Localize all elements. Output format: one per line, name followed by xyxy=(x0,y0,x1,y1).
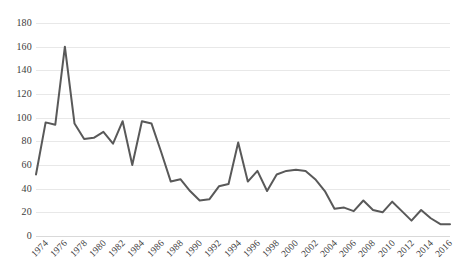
y-axis: 020406080100120140160180 xyxy=(0,23,32,236)
x-tick-label-1978: 1978 xyxy=(68,238,89,259)
series-line-layer xyxy=(36,23,450,236)
x-tick-label-2002: 2002 xyxy=(299,238,320,259)
x-tick-label-2010: 2010 xyxy=(376,238,397,259)
y-tick-label-60: 60 xyxy=(22,160,32,170)
x-tick-label-1984: 1984 xyxy=(126,238,147,259)
x-tick-label-1998: 1998 xyxy=(260,238,281,259)
y-tick-label-80: 80 xyxy=(22,136,32,146)
y-tick-label-40: 40 xyxy=(22,184,32,194)
x-tick-label-2014: 2014 xyxy=(414,238,435,259)
y-tick-label-140: 140 xyxy=(16,65,32,75)
x-tick-label-1996: 1996 xyxy=(241,238,262,259)
x-tick-label-1994: 1994 xyxy=(222,238,243,259)
x-tick-label-1990: 1990 xyxy=(183,238,204,259)
y-tick-label-100: 100 xyxy=(16,113,32,123)
y-tick-label-0: 0 xyxy=(27,231,32,241)
y-tick-label-20: 20 xyxy=(22,207,32,217)
x-tick-label-2012: 2012 xyxy=(395,238,416,259)
y-tick-label-120: 120 xyxy=(16,89,32,99)
x-tick-label-2008: 2008 xyxy=(357,238,378,259)
x-tick-label-1988: 1988 xyxy=(164,238,185,259)
x-tick-label-1974: 1974 xyxy=(29,238,50,259)
line-chart: 020406080100120140160180 197419761978198… xyxy=(0,0,458,279)
x-tick-label-1986: 1986 xyxy=(145,238,166,259)
y-tick-label-160: 160 xyxy=(16,42,32,52)
plot-area xyxy=(36,23,450,236)
data-line-series-1 xyxy=(36,47,450,225)
x-tick-label-1980: 1980 xyxy=(87,238,108,259)
x-tick-label-2000: 2000 xyxy=(280,238,301,259)
x-axis: 1974197619781980198219841986198819901992… xyxy=(36,238,450,279)
x-tick-label-2004: 2004 xyxy=(318,238,339,259)
x-tick-label-1992: 1992 xyxy=(203,238,224,259)
x-tick-label-1976: 1976 xyxy=(49,238,70,259)
gridline-0 xyxy=(36,236,450,237)
y-tick-label-180: 180 xyxy=(16,18,32,28)
x-tick-label-2016: 2016 xyxy=(434,238,455,259)
x-tick-label-2006: 2006 xyxy=(337,238,358,259)
x-tick-label-1982: 1982 xyxy=(106,238,127,259)
